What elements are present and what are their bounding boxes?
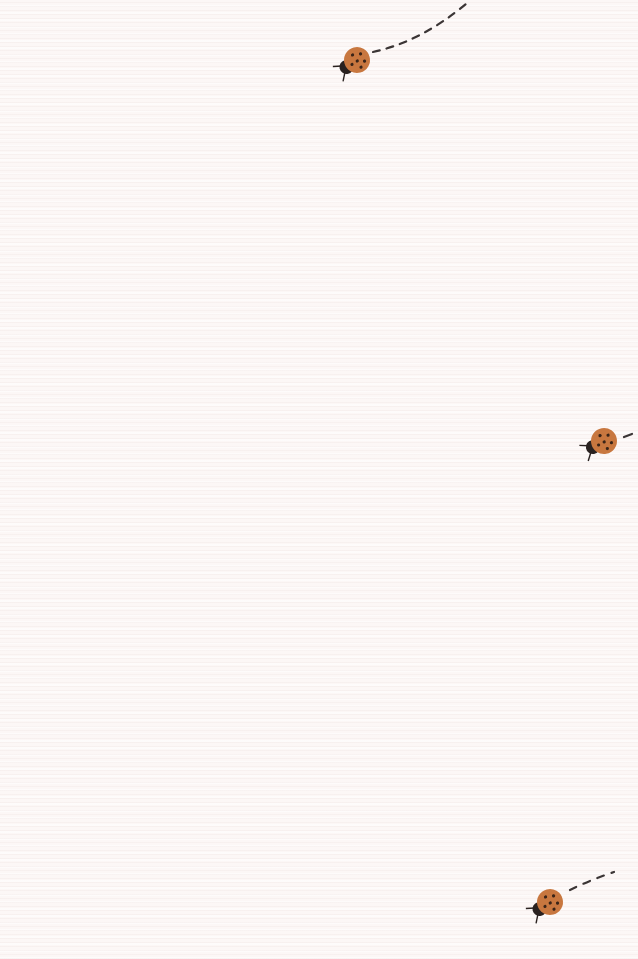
stationery-background <box>0 0 638 959</box>
